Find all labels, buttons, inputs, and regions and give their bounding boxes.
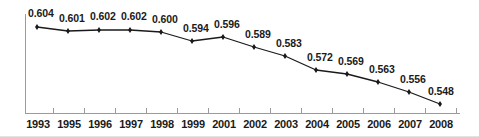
x-axis-tick-label-2001: 2001 [208, 118, 240, 131]
data-point-marker [345, 71, 349, 77]
data-point-marker [66, 28, 70, 34]
line-chart: 0.6040.6010.6020.6020.6000.5940.5960.589… [0, 0, 479, 137]
data-point-label: 0.604 [28, 8, 54, 19]
x-axis-ticks [26, 108, 457, 113]
x-axis-tick-label-2008: 2008 [425, 118, 457, 131]
x-axis-tick-label-1995: 1995 [53, 118, 85, 131]
data-point-label: 0.594 [183, 23, 209, 34]
data-point-marker [283, 53, 287, 59]
x-axis-tick-label-2007: 2007 [394, 118, 426, 131]
data-point-marker [407, 89, 411, 95]
data-point-label: 0.556 [400, 74, 426, 85]
x-axis-tick-label-1998: 1998 [146, 118, 178, 131]
data-point-label: 0.548 [428, 86, 454, 97]
data-point-label: 0.602 [90, 11, 116, 22]
data-point-marker [221, 34, 225, 40]
x-axis-tick-label-2003: 2003 [270, 118, 302, 131]
x-axis-tick-label-2005: 2005 [332, 118, 364, 131]
x-axis-tick-label-2006: 2006 [363, 118, 395, 131]
data-point-marker [376, 79, 380, 85]
data-point-marker [128, 27, 132, 33]
data-point-label: 0.589 [245, 29, 271, 40]
data-point-label: 0.596 [214, 19, 240, 30]
data-point-marker [97, 27, 101, 33]
data-point-label: 0.583 [276, 38, 302, 49]
data-point-label: 0.572 [307, 52, 333, 63]
bottom-border-rule [0, 136, 479, 137]
x-axis-tick-label-1993: 1993 [22, 118, 54, 131]
x-axis-tick-label-1999: 1999 [177, 118, 209, 131]
x-axis-tick-label-2002: 2002 [239, 118, 271, 131]
data-point-marker [252, 44, 256, 50]
data-point-marker [159, 29, 163, 35]
data-point-marker [438, 101, 442, 107]
x-axis-tick-label-1997: 1997 [115, 118, 147, 131]
data-point-marker [35, 24, 39, 30]
x-axis-tick-label-2004: 2004 [301, 118, 333, 131]
data-point-label: 0.601 [59, 13, 85, 24]
data-point-label: 0.602 [121, 11, 147, 22]
data-point-marker [314, 67, 318, 73]
x-axis-tick-label-1996: 1996 [84, 118, 116, 131]
data-point-marker [190, 38, 194, 44]
data-point-label: 0.600 [152, 14, 178, 25]
data-point-label: 0.563 [369, 64, 395, 75]
data-point-label: 0.569 [338, 56, 364, 67]
